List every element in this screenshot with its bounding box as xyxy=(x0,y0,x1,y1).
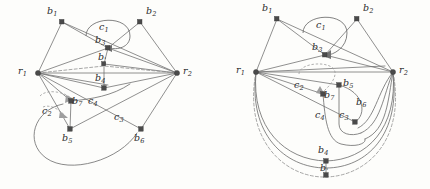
curve-label-c3: c3 xyxy=(339,110,349,120)
right-edges-from-r2 xyxy=(277,19,393,72)
figure-canvas: b1 b2 c1 b3 b' r1 r2 b4 b7 c4 c2 c3 b5 b… xyxy=(0,0,430,189)
left-edges-from-r1 xyxy=(38,22,177,129)
node-label-bprime: b' xyxy=(320,163,328,173)
node-label-b2: b2 xyxy=(363,3,373,13)
left-dashed-spine xyxy=(38,66,177,73)
node-label-b1: b1 xyxy=(262,3,272,13)
curve-label-c1: c1 xyxy=(316,20,326,30)
node-label-b1: b1 xyxy=(47,6,57,16)
curve-label-c4: c4 xyxy=(315,110,325,120)
node-label-r1: r1 xyxy=(236,65,245,75)
curve-label-c1: c1 xyxy=(99,22,109,32)
left-graph-panel: b1 b2 c1 b3 b' r1 r2 b4 b7 c4 c2 c3 b5 b… xyxy=(0,0,215,189)
node-label-b5: b5 xyxy=(62,133,72,143)
node-label-r2: r2 xyxy=(399,65,408,75)
node-label-b3: b3 xyxy=(312,42,322,52)
node-label-b7: b7 xyxy=(72,96,82,106)
node-label-b4: b4 xyxy=(95,73,105,83)
node-label-b3: b3 xyxy=(95,35,105,45)
node-label-b6: b6 xyxy=(134,133,144,143)
curve-label-c2: c2 xyxy=(294,80,304,90)
curve-label-c3: c3 xyxy=(114,112,124,122)
left-nodes xyxy=(35,19,179,131)
right-graph-panel: b1 b2 c1 b3 r1 r2 c2 b5 b7 b6 c4 c3 b4 b… xyxy=(215,0,430,189)
left-edge-b7-b5 xyxy=(70,101,71,129)
curve-label-c4: c4 xyxy=(88,96,98,106)
node-label-r1: r1 xyxy=(18,66,27,76)
node-label-b2: b2 xyxy=(146,6,156,16)
node-label-b4: b4 xyxy=(318,145,328,155)
node-label-r2: r2 xyxy=(183,66,192,76)
node-label-bprime: b' xyxy=(98,52,106,62)
right-nested-curves xyxy=(323,72,393,145)
curve-label-c2: c2 xyxy=(42,106,52,116)
node-label-b7: b7 xyxy=(324,90,334,100)
node-label-b6: b6 xyxy=(356,97,366,107)
node-label-b5: b5 xyxy=(343,78,353,88)
